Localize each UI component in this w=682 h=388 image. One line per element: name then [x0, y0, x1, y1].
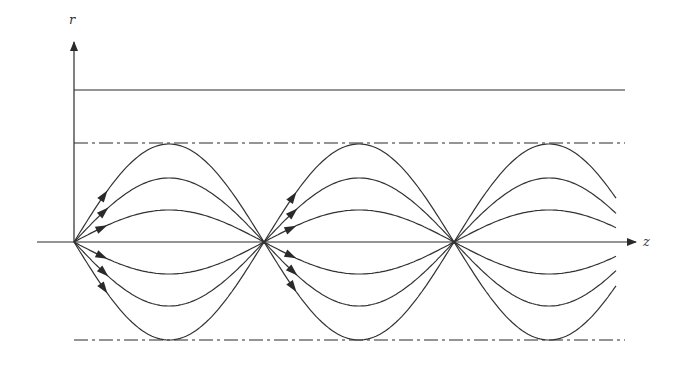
- upper-ray-2: [74, 178, 616, 242]
- direction-arrow-icon: [284, 222, 298, 234]
- lower-ray-3: [74, 242, 616, 274]
- direction-arrow-icon: [286, 190, 299, 204]
- ray-trajectory-diagram: r z: [0, 0, 682, 388]
- direction-arrow-icon: [95, 222, 109, 234]
- upper-ray-3: [74, 210, 616, 242]
- direction-arrow-icon: [286, 280, 299, 294]
- upper-ray-1: [74, 144, 616, 242]
- lower-ray-1: [74, 242, 616, 340]
- r-axis-label: r: [69, 12, 76, 27]
- direction-arrow-icon: [97, 281, 110, 295]
- direction-arrow-icon: [95, 250, 109, 262]
- direction-arrow-icon: [97, 188, 110, 202]
- lower-ray-2: [74, 242, 616, 306]
- direction-arrow-icon: [284, 250, 298, 262]
- z-axis-label: z: [642, 234, 650, 249]
